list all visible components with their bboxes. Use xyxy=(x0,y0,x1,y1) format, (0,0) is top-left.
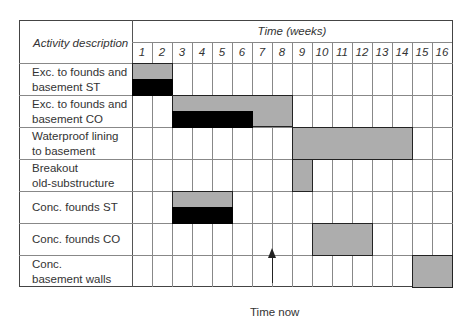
week-gridline xyxy=(392,42,393,287)
week-label: 9 xyxy=(292,46,312,58)
planned-bar xyxy=(292,159,313,192)
activity-label: Exc. to founds and basement CO xyxy=(32,97,127,127)
time-now-label: Time now xyxy=(250,306,299,318)
week-label: 6 xyxy=(232,46,252,58)
week-label: 8 xyxy=(272,46,292,58)
week-label: 5 xyxy=(212,46,232,58)
time-now-arrow-icon xyxy=(268,248,276,258)
week-label: 11 xyxy=(332,46,352,58)
week-gridline xyxy=(192,42,193,287)
week-gridline xyxy=(212,42,213,287)
gantt-chart: Activity description Time (weeks) 123456… xyxy=(0,0,471,329)
activity-column-header: Activity description xyxy=(33,36,128,51)
label-column-divider xyxy=(132,20,133,287)
time-now-arrow-shaft xyxy=(272,255,274,283)
week-label: 4 xyxy=(192,46,212,58)
row-gridline xyxy=(19,63,453,64)
activity-label: Breakout old-substructure xyxy=(32,161,114,191)
planned-bar xyxy=(292,127,413,160)
week-label: 13 xyxy=(372,46,392,58)
activity-label: Waterproof lining to basement xyxy=(32,129,119,159)
planned-bar xyxy=(412,255,453,288)
week-label: 2 xyxy=(152,46,172,58)
week-gridline xyxy=(232,42,233,287)
row-gridline xyxy=(19,191,453,192)
progress-bar xyxy=(172,111,253,128)
week-label: 10 xyxy=(312,46,332,58)
week-gridline xyxy=(432,42,433,287)
week-label: 7 xyxy=(252,46,272,58)
activity-label: Exc. to founds and basement ST xyxy=(32,65,127,95)
planned-bar xyxy=(312,223,373,256)
row-gridline xyxy=(19,223,453,224)
progress-bar xyxy=(132,79,173,96)
activity-label: Conc. founds ST xyxy=(32,200,118,215)
week-label: 14 xyxy=(392,46,412,58)
week-label: 15 xyxy=(412,46,432,58)
week-gridline xyxy=(412,42,413,287)
week-label: 3 xyxy=(172,46,192,58)
week-label: 16 xyxy=(432,46,452,58)
header-divider xyxy=(132,42,452,43)
activity-label: Conc. founds CO xyxy=(32,232,120,247)
week-label: 1 xyxy=(132,46,152,58)
row-gridline xyxy=(19,255,453,256)
week-label: 12 xyxy=(352,46,372,58)
activity-label: Conc. basement walls xyxy=(32,257,111,287)
week-gridline xyxy=(252,42,253,287)
progress-bar xyxy=(172,207,233,224)
time-axis-title: Time (weeks) xyxy=(132,25,452,37)
